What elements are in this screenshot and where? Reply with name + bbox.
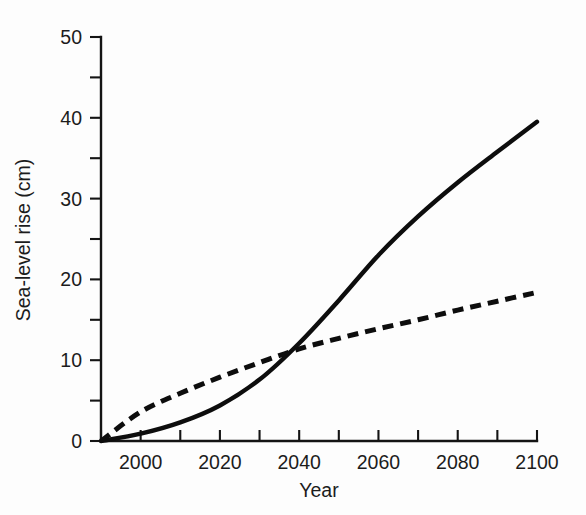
x-tick-label: 2040 bbox=[277, 451, 321, 473]
x-tick-label: 2100 bbox=[515, 451, 559, 473]
x-axis-tick-labels: 200020202040206020802100 bbox=[119, 451, 559, 473]
y-tick-label: 10 bbox=[60, 349, 82, 371]
y-axis-ticks bbox=[90, 37, 101, 441]
data-series-group bbox=[101, 122, 537, 441]
plot-axes bbox=[101, 37, 537, 441]
y-tick-label: 50 bbox=[60, 26, 82, 48]
x-axis-ticks bbox=[101, 430, 537, 441]
x-tick-label: 2000 bbox=[119, 451, 163, 473]
x-axis-title: Year bbox=[299, 479, 339, 501]
x-tick-label: 2020 bbox=[198, 451, 242, 473]
y-tick-label: 0 bbox=[71, 430, 82, 452]
sea-level-rise-line-chart: 01020304050 200020202040206020802100 Sea… bbox=[0, 0, 586, 515]
y-tick-label: 30 bbox=[60, 188, 82, 210]
y-tick-label: 20 bbox=[60, 268, 82, 290]
y-axis-title: Sea-level rise (cm) bbox=[12, 159, 34, 322]
y-axis-tick-labels: 01020304050 bbox=[60, 26, 82, 452]
x-tick-label: 2060 bbox=[357, 451, 401, 473]
series-accelerating-scenario bbox=[101, 122, 537, 441]
figure-canvas: 01020304050 200020202040206020802100 Sea… bbox=[0, 0, 586, 515]
y-tick-label: 40 bbox=[60, 107, 82, 129]
x-tick-label: 2080 bbox=[436, 451, 480, 473]
series-linear-scenario bbox=[101, 292, 537, 441]
